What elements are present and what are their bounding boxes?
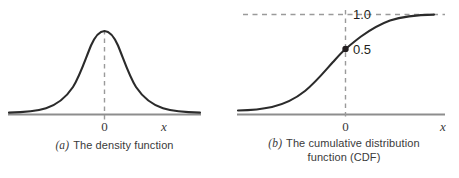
x-axis-label: x [439,119,446,134]
caption-panel-a: (a)The density function [0,138,229,152]
caption-line-1: (b)The cumulative distribution [229,136,459,150]
x-axis-label: x [160,119,167,134]
median-value-label: 0.5 [353,42,371,57]
caption-text-b-line2: function (CDF) [229,150,459,164]
caption-tag-b: (b) [268,137,282,149]
cdf-curve [238,15,434,111]
panel-cdf: 1.0 0.5 0 x (b)The cumulative distributi… [229,0,459,178]
panel-density-function: 0 x (a)The density function [0,0,229,178]
caption-panel-b: (b)The cumulative distribution function … [229,136,459,164]
caption-text-a: The density function [73,139,173,151]
caption-text-b-line1: The cumulative distribution [286,137,420,149]
median-point-marker [342,46,348,52]
origin-tick-label: 0 [101,119,108,134]
density-function-plot: 0 x [0,0,229,135]
figure-container: 0 x (a)The density function 1.0 0.5 0 x [0,0,459,178]
asymptote-value-label: 1.0 [353,7,371,22]
origin-tick-label: 0 [342,119,349,134]
cdf-plot: 1.0 0.5 0 x [229,0,459,135]
caption-tag-a: (a) [55,139,69,151]
